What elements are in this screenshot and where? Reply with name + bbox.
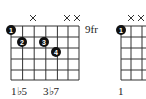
fret-position-label: 9fr [85, 23, 98, 35]
interval-label-2: 3♭7 [43, 85, 60, 97]
muted-string-markers [30, 15, 80, 21]
svg-text:2: 2 [20, 39, 24, 46]
chord-diagrams: 9fr 1 2 3 4 1♭5 3♭7 1 1 [0, 0, 146, 99]
svg-text:1: 1 [9, 27, 13, 34]
svg-text:3: 3 [42, 39, 46, 46]
finger-dot-3: 3 [39, 37, 49, 47]
interval-label-right-1: 1 [118, 85, 124, 97]
finger-dot-1: 1 [6, 25, 16, 35]
svg-text:4: 4 [54, 49, 58, 56]
muted-string-markers-right [128, 15, 144, 21]
finger-dot-4: 4 [51, 47, 61, 57]
interval-label-1: 1♭5 [11, 85, 28, 97]
finger-dot-right-1: 1 [116, 25, 126, 35]
chord-right-grid [121, 26, 146, 80]
svg-text:1: 1 [119, 27, 123, 34]
finger-dot-2: 2 [17, 37, 27, 47]
chord-left-grid [11, 26, 79, 80]
